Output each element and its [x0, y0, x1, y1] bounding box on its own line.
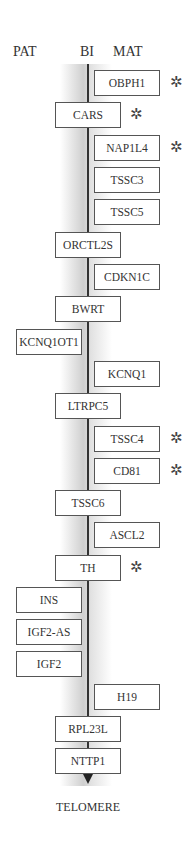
- gene-box-cdkn1c: CDKN1C: [94, 264, 160, 290]
- asterisk-icon: ✲: [130, 558, 143, 576]
- arrow-down-icon: [83, 774, 93, 784]
- gene-box-kcnq1ot1: KCNQ1OT1: [16, 329, 82, 355]
- gene-box-igf2: IGF2: [16, 651, 82, 677]
- gene-box-tssc6: TSSC6: [55, 490, 121, 516]
- asterisk-icon: ✲: [170, 429, 183, 447]
- gene-box-bwrt: BWRT: [55, 296, 121, 322]
- gene-box-tssc3: TSSC3: [94, 167, 160, 193]
- gene-box-rpl23l: RPL23L: [55, 716, 121, 742]
- chromosome-axis-line: [87, 64, 89, 776]
- gene-box-orctl2s: ORCTL2S: [55, 232, 121, 258]
- gene-box-ins: INS: [16, 587, 82, 613]
- asterisk-icon: ✲: [130, 105, 143, 123]
- gene-box-tssc5: TSSC5: [94, 199, 160, 225]
- header-bi: BI: [80, 44, 94, 60]
- gene-box-ascl2: ASCL2: [94, 522, 160, 548]
- telomere-label: TELOMERE: [0, 800, 176, 815]
- asterisk-icon: ✲: [170, 461, 183, 479]
- gene-box-ltrpc5: LTRPC5: [55, 393, 121, 419]
- gene-box-th: TH: [55, 555, 121, 581]
- gene-box-kcnq1: KCNQ1: [94, 361, 160, 387]
- asterisk-icon: ✲: [170, 73, 183, 91]
- gene-box-h19: H19: [94, 684, 160, 710]
- gene-box-obph1: OBPH1: [94, 70, 160, 96]
- gene-box-cd81: CD81: [94, 458, 160, 484]
- asterisk-icon: ✲: [170, 138, 183, 156]
- gene-box-cars: CARS: [55, 102, 121, 128]
- gene-box-nap1l4: NAP1L4: [94, 135, 160, 161]
- gene-box-nttp1: NTTP1: [55, 748, 121, 774]
- header-pat: PAT: [13, 44, 37, 60]
- gene-box-igf2-as: IGF2-AS: [16, 619, 82, 645]
- gene-box-tssc4: TSSC4: [94, 426, 160, 452]
- header-mat: MAT: [113, 44, 143, 60]
